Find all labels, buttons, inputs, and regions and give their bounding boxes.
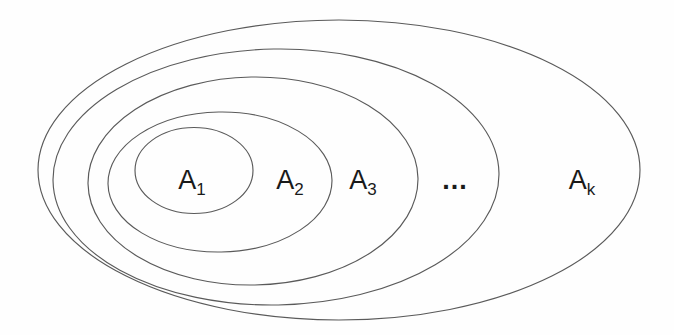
nested-sets-diagram: A1 A2 A3 ... Ak — [0, 0, 674, 335]
ellipsis-label: ... — [442, 165, 468, 195]
nested-sets-canvas: A1 A2 A3 ... Ak — [0, 0, 674, 335]
